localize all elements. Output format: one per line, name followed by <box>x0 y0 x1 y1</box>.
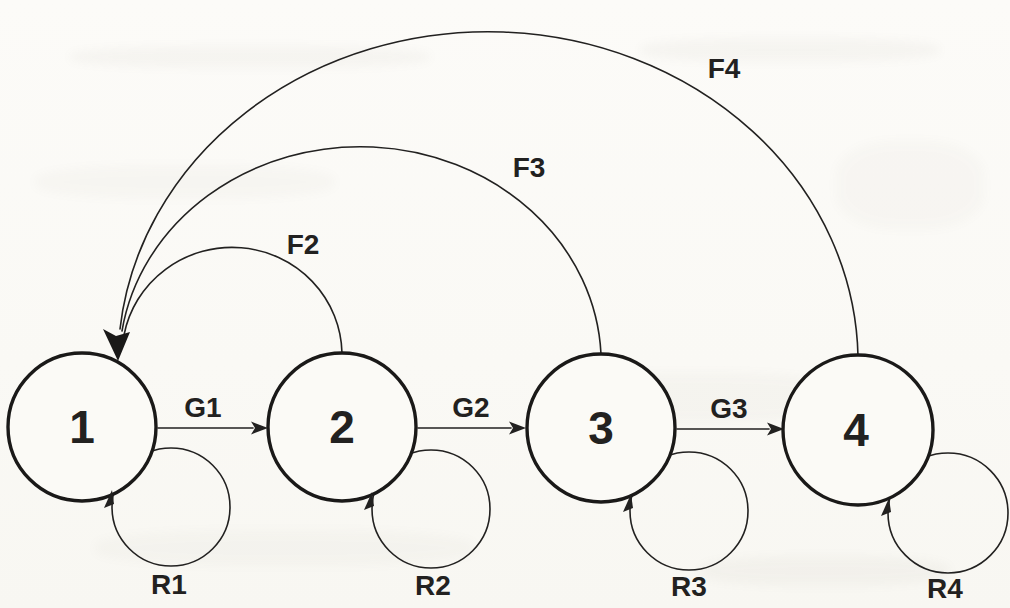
state-diagram: 1 2 3 4 G1 G2 G3 F2 F3 F4 R1 R2 R3 R4 <box>0 0 1010 608</box>
g2-label: G2 <box>452 392 489 423</box>
state-node-2-label: 2 <box>329 401 355 453</box>
r4-label: R4 <box>927 573 963 604</box>
feedback-edge-f4 <box>120 32 858 356</box>
r2-label: R2 <box>415 570 451 601</box>
state-node-4-label: 4 <box>843 404 869 456</box>
feedback-edge-f2 <box>124 247 342 353</box>
g3-label: G3 <box>710 393 747 424</box>
f3-label: F3 <box>513 152 546 183</box>
diagram-canvas: 1 2 3 4 G1 G2 G3 F2 F3 F4 R1 R2 R3 R4 <box>0 0 1010 608</box>
r3-label: R3 <box>671 571 707 602</box>
state-node-1-label: 1 <box>69 401 95 453</box>
r1-label: R1 <box>151 569 187 600</box>
f2-label: F2 <box>287 229 320 260</box>
g1-label: G1 <box>184 392 221 423</box>
f4-label: F4 <box>708 53 741 84</box>
state-node-3-label: 3 <box>588 402 614 454</box>
